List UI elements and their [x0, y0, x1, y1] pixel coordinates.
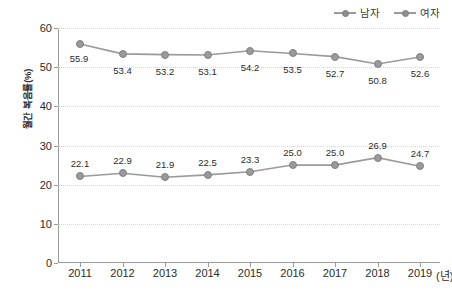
data-point-label: 54.2 [241, 62, 260, 73]
data-point-label: 53.4 [113, 65, 132, 76]
data-point-marker[interactable] [246, 168, 254, 176]
y-axis-tick-label: 60 [40, 22, 52, 34]
legend-label-male: 남자 [360, 8, 380, 19]
data-point-label: 25.0 [283, 147, 302, 158]
y-axis-tick-label: 50 [40, 61, 52, 73]
y-axis-tick-label: 10 [40, 218, 52, 230]
data-point-label: 22.5 [198, 157, 217, 168]
data-point-label: 25.0 [326, 147, 345, 158]
data-point-label: 52.6 [411, 68, 430, 79]
data-point-label: 52.7 [326, 68, 345, 79]
data-point-marker[interactable] [119, 50, 127, 58]
x-axis-tick-label: 2012 [110, 267, 134, 279]
data-point-marker[interactable] [374, 154, 382, 162]
x-axis-tick-label: 2019 [408, 267, 432, 279]
data-point-label: 53.1 [198, 66, 217, 77]
x-axis-tick-label: 2015 [238, 267, 262, 279]
data-point-marker[interactable] [204, 171, 212, 179]
x-axis-tick-label: 2016 [280, 267, 304, 279]
data-point-label: 53.2 [156, 66, 175, 77]
data-point-label: 55.9 [70, 53, 89, 64]
data-point-label: 53.5 [283, 64, 302, 75]
data-point-label: 21.9 [156, 159, 175, 170]
data-point-marker[interactable] [289, 49, 297, 57]
data-point-marker[interactable] [374, 60, 382, 68]
data-point-marker[interactable] [119, 169, 127, 177]
y-axis-title: 월간 복음률(%) [20, 44, 34, 154]
x-axis-tick-label: 2011 [68, 267, 92, 279]
legend-item-male[interactable]: 남자 [334, 8, 380, 19]
data-point-marker[interactable] [289, 161, 297, 169]
data-point-marker[interactable] [416, 53, 424, 61]
x-axis-unit-label: (년) [436, 267, 452, 283]
x-axis-tick-label: 2013 [153, 267, 177, 279]
y-axis-tick-label: 40 [40, 100, 52, 112]
x-axis-tick-label: 2017 [323, 267, 347, 279]
legend-marker-icon [394, 8, 416, 18]
data-point-marker[interactable] [161, 51, 169, 59]
chart-legend: 남자 여자 [334, 8, 440, 19]
data-point-marker[interactable] [246, 47, 254, 55]
data-point-marker[interactable] [204, 51, 212, 59]
data-point-label: 26.9 [368, 140, 387, 151]
plot-area: 0102030405060 20112012201320142015201620… [58, 28, 440, 263]
data-point-label: 23.3 [241, 154, 260, 165]
legend-label-female: 여자 [420, 8, 440, 19]
data-point-label: 24.7 [411, 148, 430, 159]
data-point-label: 50.8 [368, 75, 387, 86]
data-point-marker[interactable] [331, 53, 339, 61]
data-point-label: 22.1 [71, 158, 90, 169]
legend-item-female[interactable]: 여자 [394, 8, 440, 19]
x-axis-tick-label: 2018 [365, 267, 389, 279]
legend-marker-icon [334, 8, 356, 18]
y-axis-tick-label: 0 [46, 257, 52, 269]
y-axis-tick-label: 30 [40, 140, 52, 152]
y-axis-tick-label: 20 [40, 179, 52, 191]
y-axis-tick-mark [54, 263, 58, 264]
data-point-marker[interactable] [76, 40, 84, 48]
x-axis-tick-label: 2014 [195, 267, 219, 279]
data-point-label: 22.9 [113, 155, 132, 166]
chart-container: 남자 여자 월간 복음률(%) 0102030405060 2011201220… [0, 0, 452, 292]
